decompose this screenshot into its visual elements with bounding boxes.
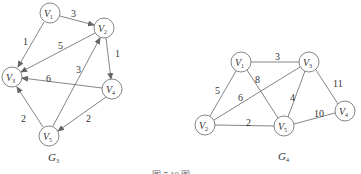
edge-g3-v4-v3 <box>22 78 102 88</box>
node-g3-v2: V2 <box>94 18 114 38</box>
weight-g4-v1-v2: 5 <box>215 85 220 96</box>
node-g3-v1: V1 <box>40 3 60 23</box>
graph-g3: 3 1 5 1 6 3 2 2 V1 V2 V3 V4 V5 G3 <box>2 3 122 164</box>
weight-g4-v3-v4: 11 <box>333 78 343 89</box>
node-g4-v1: V1 <box>231 52 251 72</box>
node-g4-v3: V3 <box>299 52 319 72</box>
edge-g3-v4-v5 <box>58 97 106 131</box>
node-g3-v5: V5 <box>39 126 59 146</box>
weight-g3-v1-v2: 3 <box>71 8 76 19</box>
node-g4-v5: V5 <box>274 116 294 136</box>
edge-g3-v1-v3 <box>18 22 44 67</box>
node-g3-v4: V4 <box>102 79 122 99</box>
edge-g3-v2-v4 <box>106 38 111 79</box>
edge-g4-v2-v5 <box>215 125 274 126</box>
graph-g4: 3 5 8 6 4 11 2 10 V1 V2 V3 V4 V5 G4 <box>195 51 355 163</box>
edge-g4-v1-v5 <box>247 70 278 118</box>
weight-g3-v4-v5: 2 <box>86 113 91 124</box>
node-g4-v2: V2 <box>195 115 215 135</box>
edge-g3-v2-v3 <box>21 33 95 72</box>
weight-g4-v3-v5: 4 <box>290 92 295 103</box>
graph-label-g3: G3 <box>48 151 59 164</box>
weight-g4-v2-v5: 2 <box>246 117 251 128</box>
figure-caption: 图 7.10 图 <box>152 170 190 174</box>
weight-g4-v1-v5: 8 <box>255 74 260 85</box>
node-g4-v4: V4 <box>335 101 355 121</box>
weight-g3-v1-v3: 1 <box>23 36 28 47</box>
edge-g3-v1-v2 <box>60 16 94 25</box>
weight-g3-v5-v3: 2 <box>21 113 26 124</box>
weight-g3-v2-v4: 1 <box>115 48 120 59</box>
weight-g4-v2-v3: 6 <box>238 92 243 103</box>
graph-figure: 3 1 5 1 6 3 2 2 V1 V2 V3 V4 V5 G3 <box>0 0 361 174</box>
weight-g3-v5-v2: 3 <box>76 64 81 75</box>
weight-g4-v5-v4: 10 <box>314 108 324 119</box>
weight-g3-v2-v3: 5 <box>58 40 63 51</box>
weight-g4-v1-v3: 3 <box>275 51 280 62</box>
weight-g3-v4-v3: 6 <box>46 73 51 84</box>
graph-label-g4: G4 <box>278 150 289 163</box>
node-g3-v3: V3 <box>2 67 22 87</box>
